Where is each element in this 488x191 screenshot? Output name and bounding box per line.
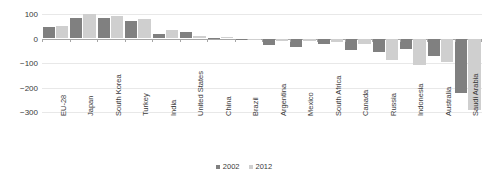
x-axis-tick	[427, 39, 428, 42]
bar-2012	[138, 19, 150, 39]
bar-group	[152, 14, 180, 112]
bar-2002	[125, 21, 137, 39]
bar-groups	[42, 14, 482, 112]
bar-2002	[43, 27, 55, 38]
y-axis-tick-label: −200	[20, 83, 38, 92]
bar-2012	[441, 39, 453, 62]
bar-group	[427, 14, 455, 112]
x-axis-tick	[180, 39, 181, 42]
x-axis-tick	[97, 39, 98, 42]
bar-group	[125, 14, 153, 112]
x-axis-tick	[125, 39, 126, 42]
bar-group	[235, 14, 263, 112]
bar-2012	[331, 39, 343, 42]
bar-group	[180, 14, 208, 112]
bar-2012	[358, 39, 370, 44]
y-axis-tick-label: −300	[20, 108, 38, 117]
legend-swatch-icon	[249, 165, 253, 169]
x-axis-tick	[345, 39, 346, 42]
legend-item[interactable]: 2002	[216, 162, 240, 171]
bar-2012	[111, 16, 123, 39]
bar-2012	[83, 14, 95, 38]
bar-group	[400, 14, 428, 112]
bar-2002	[400, 39, 412, 50]
bar-group	[317, 14, 345, 112]
bar-2012	[248, 39, 260, 40]
bar-2012	[386, 39, 398, 61]
x-axis-tick	[481, 39, 482, 42]
x-axis-tick	[290, 39, 291, 42]
bar-2012	[166, 30, 178, 38]
bar-group	[207, 14, 235, 112]
bar-2002	[98, 18, 110, 39]
bar-2002	[70, 18, 82, 39]
x-axis-tick	[317, 39, 318, 42]
x-axis-tick	[42, 39, 43, 42]
bar-group	[345, 14, 373, 112]
bar-2002	[373, 39, 385, 53]
x-axis-tick	[70, 39, 71, 42]
bar-group	[97, 14, 125, 112]
bar-2002	[208, 38, 220, 39]
bar-2002	[318, 39, 330, 44]
x-axis-tick	[455, 39, 456, 42]
bar-group	[455, 14, 483, 112]
legend-item[interactable]: 2012	[249, 162, 273, 171]
chart-legend: 20022012	[0, 162, 488, 171]
bar-2012	[468, 39, 480, 110]
bar-chart: 1000−100−200−300 EU-28JapanSouth KoreaTu…	[0, 0, 488, 191]
bar-group	[70, 14, 98, 112]
bar-2002	[235, 39, 247, 40]
x-axis-tick	[235, 39, 236, 42]
bar-2012	[413, 39, 425, 65]
gridline	[42, 112, 482, 113]
y-axis-tick-label: −100	[20, 59, 38, 68]
bar-group	[290, 14, 318, 112]
bar-2012	[56, 26, 68, 39]
bar-2002	[180, 32, 192, 39]
y-axis-tick-labels: 1000−100−200−300	[0, 14, 38, 112]
bar-2002	[345, 39, 357, 51]
legend-swatch-icon	[216, 165, 220, 169]
bar-2012	[276, 39, 288, 41]
legend-label: 2012	[256, 162, 273, 171]
y-axis-tick-label: 0	[34, 34, 38, 43]
bar-2002	[455, 39, 467, 93]
x-axis-tick	[152, 39, 153, 42]
bar-2012	[303, 39, 315, 42]
bar-group	[372, 14, 400, 112]
bar-2002	[290, 39, 302, 47]
x-axis-tick	[372, 39, 373, 42]
bar-group	[262, 14, 290, 112]
x-axis-tick	[262, 39, 263, 42]
y-axis-tick-label: 100	[25, 10, 38, 19]
bar-2002	[428, 39, 440, 57]
legend-label: 2002	[223, 162, 240, 171]
bar-2002	[263, 39, 275, 46]
x-axis-tick	[207, 39, 208, 42]
bar-2012	[193, 36, 205, 39]
x-axis-tick	[400, 39, 401, 42]
bar-2002	[153, 34, 165, 38]
bar-2012	[221, 37, 233, 39]
plot-area	[42, 14, 482, 112]
bar-group	[42, 14, 70, 112]
